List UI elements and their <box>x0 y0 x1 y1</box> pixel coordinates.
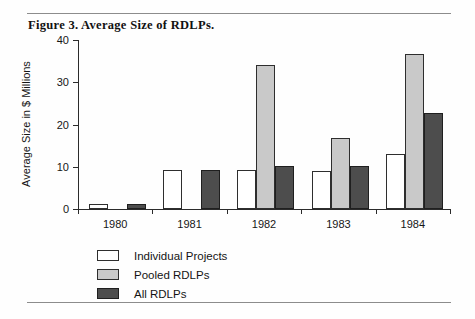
x-tick-label: 1982 <box>252 218 276 230</box>
x-tick-label: 1983 <box>326 218 350 230</box>
bar-all <box>127 204 146 209</box>
legend-swatch-pooled <box>97 269 119 280</box>
bar-all <box>350 166 369 209</box>
bar-pooled <box>256 65 275 209</box>
x-separator-tick <box>450 209 451 214</box>
x-separator-tick <box>78 209 79 214</box>
legend-item: Individual Projects <box>97 247 227 264</box>
bar-group <box>301 40 375 209</box>
figure-bottom-rule <box>27 302 451 303</box>
bar-individual <box>163 170 182 209</box>
bar-all <box>275 166 294 209</box>
chart-legend: Individual ProjectsPooled RDLPsAll RDLPs <box>97 247 227 304</box>
y-tick-label: 20 <box>57 119 69 131</box>
bar-group <box>376 40 450 209</box>
y-tick-label: 10 <box>57 161 69 173</box>
legend-item: All RDLPs <box>97 285 227 302</box>
figure-top-rule <box>27 13 451 14</box>
y-tick-label: 40 <box>57 34 69 46</box>
x-tick-label: 1980 <box>103 218 127 230</box>
legend-label: Pooled RDLPs <box>134 269 209 281</box>
bar-individual <box>89 204 108 209</box>
legend-swatch-individual <box>97 250 119 261</box>
bar-group <box>78 40 152 209</box>
bar-individual <box>237 170 256 209</box>
bar-group <box>227 40 301 209</box>
x-separator-tick <box>152 209 153 214</box>
bar-individual <box>386 154 405 209</box>
bar-all <box>201 170 220 209</box>
x-axis-line <box>78 209 450 210</box>
bar-pooled <box>331 138 350 209</box>
x-separator-tick <box>376 209 377 214</box>
legend-label: Individual Projects <box>134 250 227 262</box>
x-separator-tick <box>227 209 228 214</box>
legend-label: All RDLPs <box>134 288 186 300</box>
bar-individual <box>312 171 331 209</box>
bar-pooled <box>405 54 424 209</box>
plot-area: 010203040 19801981198219831984 <box>78 40 450 209</box>
x-tick-label: 1981 <box>177 218 201 230</box>
y-tick-label: 30 <box>57 76 69 88</box>
bar-all <box>424 113 443 209</box>
bar-group <box>152 40 226 209</box>
figure-title: Figure 3. Average Size of RDLPs. <box>28 18 215 33</box>
figure-container: Figure 3. Average Size of RDLPs. Average… <box>0 0 475 319</box>
legend-swatch-all <box>97 288 119 299</box>
x-separator-tick <box>301 209 302 214</box>
y-tick-label: 0 <box>63 203 69 215</box>
x-tick-label: 1984 <box>401 218 425 230</box>
legend-item: Pooled RDLPs <box>97 266 227 283</box>
y-axis-title: Average Size in $ Millions <box>20 61 32 187</box>
